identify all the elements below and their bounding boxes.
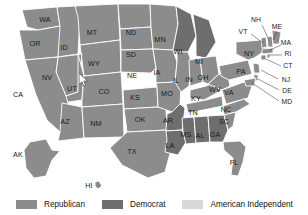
state-label-tx: TX [127, 147, 136, 156]
state-label-ri: RI [285, 50, 292, 57]
state-label-co: CO [99, 87, 110, 96]
map-canvas[interactable]: WAORIDMTWYNDSDNEMNIAWIMINVUTCOCAAZNMKSOK… [0, 0, 308, 192]
legend-item-democrat[interactable]: Democrat [102, 200, 166, 210]
state-ok[interactable] [124, 107, 167, 132]
state-label-wy: WY [88, 59, 100, 68]
state-label-ne: NE [127, 71, 137, 80]
state-label-ms: MS [181, 130, 192, 139]
state-label-sc: SC [219, 117, 229, 126]
state-label-hi: HI [85, 181, 92, 190]
state-label-nc: NC [221, 105, 232, 114]
state-vt[interactable] [261, 37, 267, 48]
state-label-md: MD [282, 98, 293, 105]
state-label-wi: WI [174, 47, 183, 56]
state-label-ca: CA [13, 90, 23, 99]
state-label-nj: NJ [282, 76, 291, 83]
leader-line-nh [262, 25, 268, 38]
leader-line-nj [261, 70, 278, 79]
legend-label: American Independent [210, 200, 292, 210]
state-label-or: OR [30, 39, 41, 48]
state-label-ks: KS [130, 93, 140, 102]
state-hi[interactable] [95, 181, 102, 189]
state-label-nv: NV [42, 73, 52, 82]
state-or[interactable] [19, 26, 62, 60]
legend-swatch-republican [16, 200, 37, 209]
state-label-me: ME [272, 23, 283, 30]
state-label-oh: OH [198, 73, 209, 82]
legend-swatch-american-independent [182, 200, 203, 209]
legend-swatch-democrat [102, 200, 123, 209]
state-label-ct: CT [283, 62, 292, 69]
state-label-al: AL [196, 131, 205, 140]
legend-label: Republican [44, 200, 85, 210]
state-me[interactable] [272, 30, 281, 44]
state-label-la: LA [166, 141, 175, 150]
leader-line-de [258, 79, 279, 90]
state-label-mt: MT [87, 28, 98, 37]
state-label-va: VA [224, 88, 233, 97]
state-ct[interactable] [261, 55, 266, 60]
state-mt[interactable] [75, 4, 120, 45]
state-label-ok: OK [135, 115, 146, 124]
state-label-az: AZ [60, 117, 70, 126]
state-label-in: IN [185, 75, 192, 84]
state-ks[interactable] [123, 87, 158, 109]
state-label-il: IL [173, 76, 179, 85]
state-md[interactable] [244, 78, 256, 86]
state-label-ia: IA [154, 68, 161, 77]
us-states-svg[interactable]: WAORIDMTWYNDSDNEMNIAWIMINVUTCOCAAZNMKSOK… [0, 0, 308, 192]
state-label-nm: NM [90, 119, 101, 128]
legend-item-american-independent[interactable]: American Independent [182, 200, 292, 210]
leader-line-md [252, 83, 279, 101]
state-label-wv: WV [209, 85, 221, 94]
state-label-wa: WA [39, 15, 51, 24]
state-nm[interactable] [82, 104, 124, 138]
state-wy[interactable] [80, 40, 121, 76]
state-label-sd: SD [126, 50, 136, 59]
leader-line-ct [266, 59, 281, 66]
state-label-ut: UT [67, 84, 77, 93]
state-label-id: ID [60, 43, 67, 52]
state-label-nd: ND [126, 28, 137, 37]
state-label-de: DE [282, 87, 292, 94]
state-label-ny: NY [244, 49, 254, 58]
state-label-ky: KY [191, 94, 201, 103]
state-label-nh: NH [251, 16, 261, 23]
state-label-pa: PA [236, 67, 245, 76]
state-label-ga: GA [210, 130, 221, 139]
state-label-ar: AR [163, 116, 173, 125]
state-label-fl: FL [230, 158, 239, 167]
state-label-vt: VT [239, 28, 248, 35]
us-election-map-figure: WAORIDMTWYNDSDNEMNIAWIMINVUTCOCAAZNMKSOK… [0, 0, 308, 215]
state-label-ak: AK [13, 150, 23, 159]
legend: RepublicanDemocratAmerican Independent [0, 194, 308, 215]
state-label-mi: MI [195, 57, 203, 66]
state-label-tn: TN [188, 108, 198, 117]
state-ma[interactable] [262, 48, 273, 54]
legend-item-republican[interactable]: Republican [16, 200, 85, 210]
state-label-mn: MN [154, 35, 165, 44]
state-nd[interactable] [118, 4, 151, 29]
state-mi[interactable] [193, 14, 216, 58]
legend-label: Democrat [130, 200, 166, 210]
state-label-mo: MO [161, 89, 173, 98]
state-label-ma: MA [281, 39, 292, 46]
state-nj[interactable] [253, 63, 260, 73]
state-ri[interactable] [267, 54, 270, 58]
state-ak[interactable] [24, 139, 60, 178]
